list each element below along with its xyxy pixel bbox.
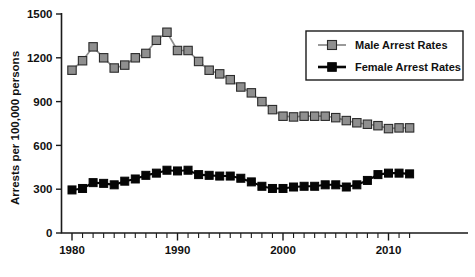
data-point-male — [216, 70, 224, 78]
data-point-male — [310, 112, 318, 120]
data-point-male — [258, 97, 266, 105]
x-tick-label: 1980 — [59, 244, 85, 256]
data-point-female — [79, 184, 87, 192]
chart-legend: Male Arrest RatesFemale Arrest Rates — [306, 31, 463, 80]
data-point-male — [99, 54, 107, 62]
data-point-male — [226, 76, 234, 84]
data-point-female — [353, 181, 361, 189]
data-point-male — [163, 28, 171, 36]
y-tick-label: 1200 — [27, 52, 53, 64]
data-point-female — [342, 183, 350, 191]
data-point-female — [385, 169, 393, 177]
data-point-male — [247, 89, 255, 97]
data-point-female — [247, 178, 255, 186]
data-point-female — [110, 181, 118, 189]
y-tick-label: 0 — [46, 227, 52, 239]
data-point-male — [268, 105, 276, 113]
y-tick-label: 900 — [33, 96, 52, 108]
y-axis-label: Arrests per 100,000 persons — [9, 51, 21, 205]
data-point-male — [110, 64, 118, 72]
data-point-male — [353, 119, 361, 127]
data-point-female — [374, 171, 382, 179]
x-tick-label: 2010 — [376, 244, 402, 256]
data-point-female — [300, 182, 308, 190]
data-point-female — [332, 181, 340, 189]
legend-entry-label: Male Arrest Rates — [355, 39, 448, 51]
data-point-male — [68, 66, 76, 74]
x-tick-label: 1990 — [165, 244, 191, 256]
chart-canvas: Arrests per 100,000 persons 030060090012… — [0, 0, 475, 277]
data-point-female — [152, 169, 160, 177]
data-point-female — [395, 169, 403, 177]
data-point-male — [332, 113, 340, 121]
data-point-male — [142, 49, 150, 57]
legend-marker-swatch — [328, 41, 337, 50]
data-point-female — [68, 186, 76, 194]
data-point-female — [163, 166, 171, 174]
data-point-male — [321, 112, 329, 120]
data-point-male — [194, 57, 202, 65]
data-point-female — [142, 171, 150, 179]
data-point-male — [289, 113, 297, 121]
legend-marker-swatch — [328, 63, 337, 72]
y-axis-label-text: Arrests per 100,000 persons — [9, 51, 21, 205]
data-point-female — [311, 182, 319, 190]
data-point-male — [152, 36, 160, 44]
x-axis-ticks: 1980199020002010 — [59, 233, 409, 256]
data-point-male — [131, 54, 139, 62]
data-point-male — [205, 66, 213, 74]
data-point-male — [184, 46, 192, 54]
data-point-female — [237, 174, 245, 182]
data-point-female — [321, 181, 329, 189]
data-point-male — [78, 57, 86, 65]
arrest-rates-chart: Arrests per 100,000 persons 030060090012… — [0, 0, 475, 277]
legend-entry-label: Female Arrest Rates — [355, 61, 461, 73]
data-point-male — [374, 121, 382, 129]
data-point-female — [406, 170, 414, 178]
data-point-male — [363, 120, 371, 128]
data-point-female — [226, 172, 234, 180]
data-point-female — [258, 182, 266, 190]
data-point-female — [216, 172, 224, 180]
data-point-male — [121, 61, 129, 69]
data-point-male — [279, 112, 287, 120]
y-axis-ticks: 030060090012001500 — [27, 8, 62, 239]
data-point-male — [405, 124, 413, 132]
data-point-female — [174, 167, 182, 175]
data-point-female — [131, 175, 139, 183]
data-point-female — [100, 179, 108, 187]
data-point-female — [290, 183, 298, 191]
data-point-female — [205, 171, 213, 179]
data-point-male — [237, 83, 245, 91]
data-point-female — [363, 176, 371, 184]
data-point-male — [300, 112, 308, 120]
data-point-male — [384, 124, 392, 132]
y-tick-label: 600 — [33, 140, 52, 152]
y-tick-label: 300 — [33, 183, 52, 195]
data-point-female — [184, 166, 192, 174]
data-point-female — [279, 184, 287, 192]
y-tick-label: 1500 — [27, 8, 53, 20]
data-point-male — [342, 116, 350, 124]
data-point-female — [121, 177, 129, 185]
data-point-male — [395, 124, 403, 132]
data-point-female — [195, 171, 203, 179]
data-point-female — [89, 179, 97, 187]
data-point-female — [268, 184, 276, 192]
data-point-male — [89, 43, 97, 51]
x-tick-label: 2000 — [270, 244, 296, 256]
data-point-male — [173, 46, 181, 54]
